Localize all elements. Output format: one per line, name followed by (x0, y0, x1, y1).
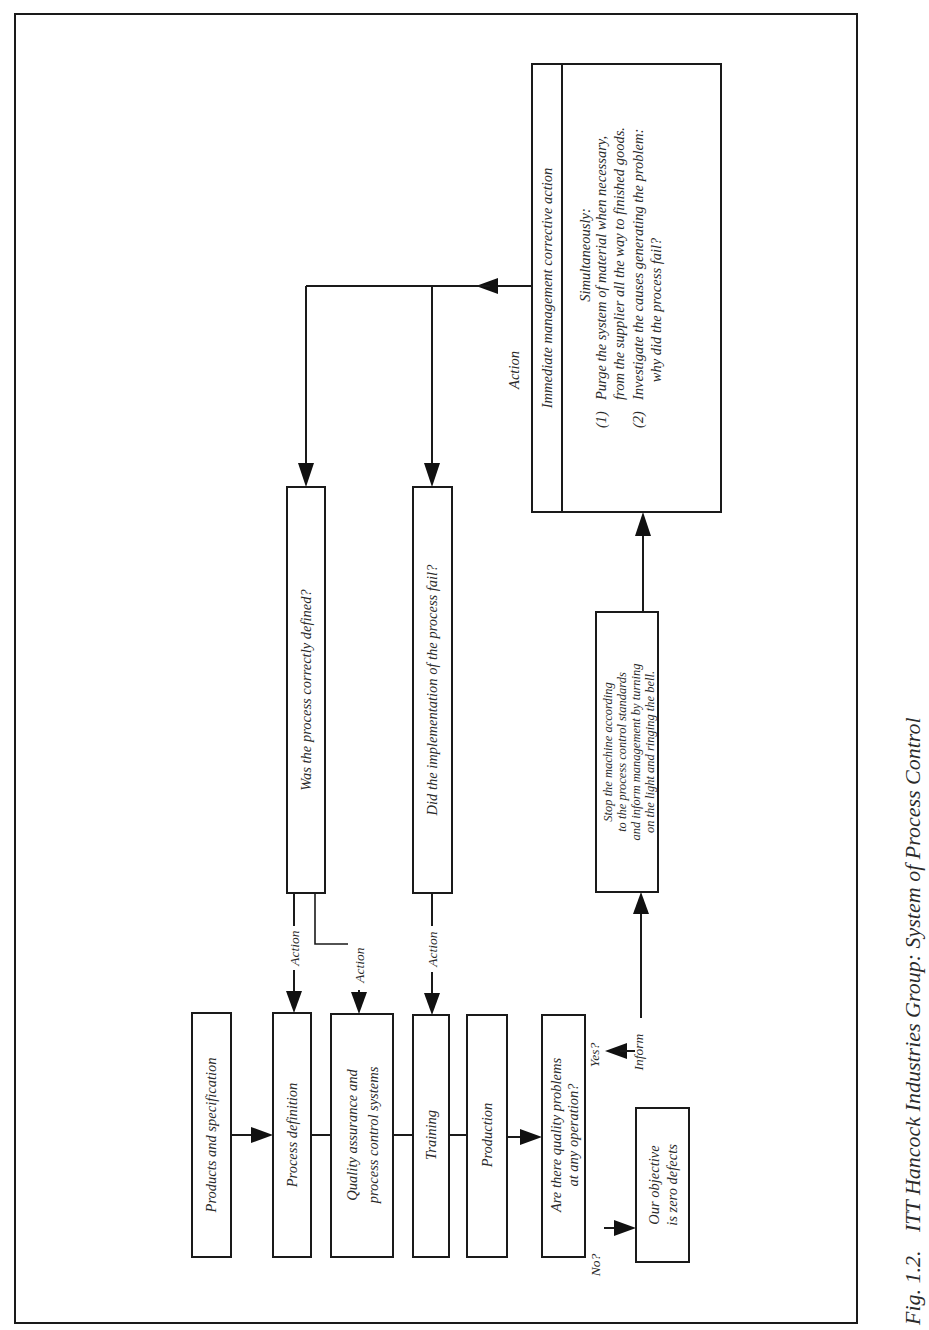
node-label: Training (423, 1110, 439, 1160)
item-1-line-1: Purge the system of material when necess… (593, 136, 609, 401)
node-label-line-1: Our objective (646, 1145, 662, 1225)
figure-number: Fig. 1.2. (900, 1250, 925, 1326)
management-header: Immediate management corrective action (539, 168, 555, 410)
node-implementation-question: Did the implementation of the process fa… (413, 487, 452, 893)
node-stop-machine: Stop the machine according to the proces… (596, 612, 658, 892)
item-1-line-2: from the supplier all the way to finishe… (611, 127, 627, 400)
edge-label-action-2: Action (352, 947, 367, 983)
node-label: Did the implementation of the process fa… (424, 564, 440, 817)
arrowhead-down-icon (351, 992, 367, 1014)
connector-line (315, 893, 348, 944)
node-label-line-2: is zero defects (664, 1144, 680, 1226)
node-products-specification: Products and specification (192, 1013, 231, 1257)
process-control-diagram: Products and specification Process defin… (0, 0, 929, 1330)
edge-label-no: No? (588, 1254, 603, 1278)
node-process-definition: Process definition (273, 1013, 311, 1257)
management-intro: Simultaneously: (577, 208, 593, 301)
arrowhead-right-icon (251, 1127, 273, 1143)
item-2-number: (2) (630, 411, 647, 428)
edge-label-inform: Inform (631, 1033, 646, 1071)
arrowhead-right-icon (520, 1129, 542, 1145)
edge-label-action-top: Action (506, 351, 522, 390)
node-label: Production (479, 1103, 495, 1169)
figure-caption: Fig. 1.2. ITT Hancock Industries Group: … (900, 717, 925, 1326)
node-label-line-1: Are there quality problems (548, 1058, 564, 1214)
node-label: Process definition (284, 1083, 300, 1189)
node-label-line-2: process control systems (365, 1066, 381, 1204)
node-production: Production (467, 1015, 507, 1257)
node-label: Products and specification (203, 1058, 219, 1214)
node-label-line-1: Quality assurance and (344, 1069, 360, 1201)
arrowhead-down-icon (424, 993, 440, 1015)
arrowhead-down-icon (298, 463, 314, 487)
edge-label-action-1: Action (287, 930, 302, 966)
arrowhead-up-icon (635, 512, 651, 536)
node-label-line-2: at any operation? (565, 1083, 581, 1187)
node-label-line-4: on the light and ringing the bell. (643, 671, 657, 833)
node-training: Training (413, 1015, 449, 1257)
edge-label-yes: Yes? (587, 1043, 602, 1068)
item-2-line-2: why did the process fail? (648, 237, 664, 382)
node-management-action: Immediate management corrective action S… (532, 64, 721, 512)
node-label: Was the process correctly defined? (298, 589, 314, 791)
item-2-line-1: Investigate the causes generating the pr… (630, 129, 646, 401)
node-label-line-2: to the process control standards (615, 672, 629, 832)
node-process-defined-question: Was the process correctly defined? (287, 487, 325, 893)
figure-title: ITT Hancock Industries Group: System of … (900, 717, 925, 1233)
node-zero-defects: Our objective is zero defects (636, 1108, 689, 1262)
node-quality-problems-decision: Are there quality problems at any operat… (542, 1015, 585, 1257)
arrowhead-down-icon (424, 463, 440, 487)
node-label-line-1: Stop the machine according (601, 682, 615, 821)
edge-label-action-3: Action (425, 931, 440, 967)
arrowhead-down-icon (286, 991, 302, 1013)
node-quality-assurance: Quality assurance and process control sy… (331, 1014, 393, 1257)
arrowhead-up-icon (633, 892, 649, 914)
node-label-line-3: and inform management by turning (629, 663, 643, 840)
arrowhead-right-icon (614, 1220, 636, 1236)
item-1-number: (1) (593, 411, 610, 428)
